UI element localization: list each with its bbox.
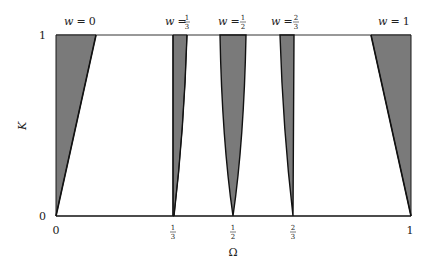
arnold-tongues-diagram: w=0 w= 1 3 w= 1 2 w= 2 3 w=1 1 0 K 0 1 3… (0, 0, 431, 268)
tongue-w-1-2 (220, 35, 246, 216)
svg-text:w=1: w=1 (378, 15, 410, 28)
tongue-label-w-1-2: w= 1 2 (218, 14, 246, 31)
svg-text:2: 2 (291, 224, 295, 232)
svg-text:1: 1 (231, 224, 235, 232)
svg-text:3: 3 (171, 233, 175, 241)
y-axis: 1 0 K (16, 29, 46, 223)
x-tick-0: 0 (53, 224, 60, 237)
tongue-w-2-3 (280, 35, 294, 216)
svg-text:w=: w= (218, 15, 240, 28)
y-axis-label: K (16, 121, 29, 131)
svg-text:3: 3 (291, 233, 295, 241)
svg-text:1: 1 (241, 14, 245, 22)
svg-text:w=0: w=0 (64, 15, 96, 28)
tongue-w-1 (371, 35, 411, 216)
svg-text:2: 2 (294, 14, 298, 22)
svg-text:3: 3 (185, 23, 189, 31)
tongue-label-w-0: w=0 (64, 15, 96, 28)
tongue-label-w-2-3: w= 2 3 (271, 14, 299, 31)
svg-text:3: 3 (294, 23, 298, 31)
y-tick-0: 0 (39, 210, 46, 223)
y-tick-1: 1 (39, 29, 46, 42)
x-tick-1-3: 1 3 (170, 224, 176, 241)
svg-text:w=: w= (165, 15, 187, 28)
svg-text:2: 2 (231, 233, 235, 241)
x-axis: 0 1 3 1 2 2 3 1 Ω (53, 224, 414, 259)
x-tick-1-2: 1 2 (230, 224, 236, 241)
tongue-w-1-3 (173, 35, 187, 216)
svg-text:1: 1 (185, 14, 189, 22)
tongue-w-0 (56, 35, 96, 216)
svg-text:w=: w= (271, 15, 293, 28)
svg-text:2: 2 (241, 23, 245, 31)
svg-text:1: 1 (171, 224, 175, 232)
tongue-label-w-1: w=1 (378, 15, 410, 28)
x-axis-label: Ω (228, 246, 237, 259)
tongue-label-w-1-3: w= 1 3 (165, 14, 190, 31)
x-tick-2-3: 2 3 (290, 224, 296, 241)
x-tick-1: 1 (407, 224, 414, 237)
